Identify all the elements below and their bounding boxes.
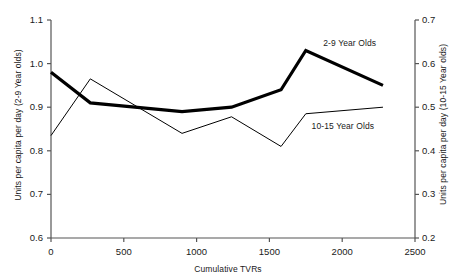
y-axis-left-tick-label: 0.7: [9, 188, 43, 199]
series-line-2-9-year-olds: [51, 51, 383, 112]
series-line-10-15-year-olds: [51, 79, 383, 147]
y-axis-left-tick-label: 1.0: [9, 58, 43, 69]
y-axis-left-tick-label: 1.1: [9, 14, 43, 25]
y-axis-right-tick-label: 0.6: [422, 58, 456, 69]
x-axis-tick-label: 1500: [249, 246, 289, 257]
y-axis-right-tick-label: 0.7: [422, 14, 456, 25]
chart-figure: Units per capita per day (2-9 Year olds)…: [0, 0, 456, 280]
tick-marks-group: [47, 20, 419, 242]
y-axis-right-tick-label: 0.3: [422, 188, 456, 199]
x-axis-tick-label: 1000: [177, 246, 217, 257]
y-axis-left-tick-label: 0.9: [9, 101, 43, 112]
x-axis-tick-label: 500: [104, 246, 144, 257]
y-axis-right-tick-label: 0.2: [422, 232, 456, 243]
x-axis-tick-label: 2000: [322, 246, 362, 257]
y-axis-left-tick-label: 0.6: [9, 232, 43, 243]
x-axis-tick-label: 2500: [395, 246, 435, 257]
y-axis-left-title: Units per capita per day (2-9 Year olds): [13, 45, 23, 205]
y-axis-left-tick-label: 0.8: [9, 145, 43, 156]
y-axis-right-tick-label: 0.5: [422, 101, 456, 112]
x-axis-tick-label: 0: [31, 246, 71, 257]
x-axis-title: Cumulative TVRs: [0, 264, 456, 274]
chart-canvas: [0, 0, 456, 280]
series-label-2-9-year-olds: 2-9 Year Olds: [323, 38, 376, 48]
y-axis-right-title: Units per capita per day (10-15 Year old…: [438, 45, 448, 205]
y-axis-right-tick-label: 0.4: [422, 145, 456, 156]
data-series-group: [51, 51, 383, 147]
series-label-10-15-year-olds: 10-15 Year Olds: [312, 121, 374, 131]
